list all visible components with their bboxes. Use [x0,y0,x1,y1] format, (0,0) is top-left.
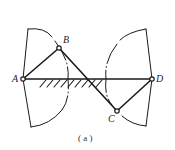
right-swept-region [106,29,152,126]
link-CD [117,79,152,111]
label-C: C [108,114,115,124]
label-D: D [156,74,163,84]
label-A: A [12,74,18,84]
linkage-diagram [0,0,175,150]
joint-D [150,77,154,81]
joint-A [21,77,25,81]
left-swept-region [23,29,68,127]
links [23,48,152,111]
joint-C [115,109,119,113]
label-B: B [63,35,69,45]
link-AB [23,48,59,79]
joint-B [57,46,61,50]
figure-caption: ( a ) [78,134,93,143]
